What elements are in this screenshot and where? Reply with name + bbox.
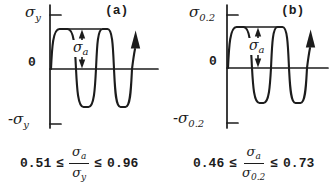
end-arrowhead-b	[306, 30, 315, 48]
fraction-numerator: σa	[69, 145, 89, 164]
upper-bound-a: 0.96	[107, 157, 138, 170]
sigma-subscript: y	[35, 12, 41, 23]
amplitude-arrowhead-up-b	[255, 28, 261, 37]
lower-bound-a: 0.51	[20, 157, 51, 170]
wave-curve-b	[228, 27, 310, 103]
amplitude-arrowhead-down-a	[79, 60, 85, 69]
leq-symbol: ≤	[269, 157, 279, 170]
formula-a: 0.51 ≤ σa σy ≤ 0.96	[20, 145, 138, 182]
sigma-subscript: a	[259, 44, 265, 55]
fraction-denominator: σ0.2	[242, 164, 265, 182]
sigma-symbol: σ	[249, 37, 259, 53]
panel-tag-b: (b)	[281, 4, 304, 19]
neg-sigma-symbol: -σ	[173, 109, 188, 127]
stress-waveform-figure: σy (a) 0 -σy σa 0.51 ≤ σa σy ≤ 0.96 σ0.2…	[0, 0, 335, 191]
fraction-denominator: σy	[72, 164, 86, 182]
stress-ratio-fraction-a: σa σy	[69, 145, 89, 182]
sigma-symbol: σ	[189, 3, 199, 21]
axis-top-label-a: σy	[25, 4, 41, 24]
panel-a-graphics	[50, 5, 158, 128]
sigma-subscript: 0.2	[188, 118, 204, 129]
fraction-numerator: σa	[244, 145, 264, 164]
lower-bound-b: 0.46	[193, 157, 224, 170]
wave-curve-a	[51, 29, 135, 107]
leq-symbol: ≤	[93, 157, 103, 170]
formula-b: 0.46 ≤ σa σ0.2 ≤ 0.73	[193, 145, 314, 182]
axis-bottom-label-a: -σy	[8, 111, 29, 131]
sigma-symbol: σ	[73, 39, 83, 55]
zero-label-b: 0	[209, 55, 217, 70]
panel-b-graphics	[227, 5, 328, 128]
end-arrowhead-a	[131, 31, 140, 49]
sigma-subscript: y	[23, 119, 29, 130]
sigma-subscript: 0.2	[199, 12, 215, 23]
panel-tag-a: (a)	[105, 4, 128, 19]
amplitude-arrowhead-down-b	[255, 59, 261, 68]
leq-symbol: ≤	[228, 157, 238, 170]
leq-symbol: ≤	[55, 157, 65, 170]
stress-ratio-fraction-b: σa σ0.2	[242, 145, 265, 182]
axis-top-label-b: σ0.2	[189, 4, 215, 24]
sigma-subscript: a	[83, 46, 89, 57]
amplitude-label-a: σa	[71, 40, 91, 57]
amplitude-arrowhead-up-a	[79, 30, 85, 39]
upper-bound-b: 0.73	[283, 157, 314, 170]
sigma-symbol: σ	[25, 3, 35, 21]
neg-sigma-symbol: -σ	[8, 110, 23, 128]
zero-label-a: 0	[28, 56, 36, 71]
amplitude-label-b: σa	[247, 38, 267, 55]
axis-bottom-label-b: -σ0.2	[173, 110, 204, 130]
